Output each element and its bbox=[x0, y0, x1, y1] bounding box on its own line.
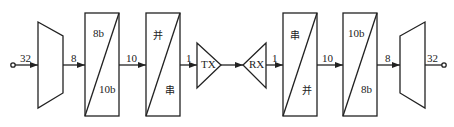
input-mux bbox=[38, 22, 63, 108]
encoder-bottom-label: 10b bbox=[99, 84, 116, 95]
decoder-top-label: 10b bbox=[348, 28, 365, 39]
rx-label: RX bbox=[249, 59, 264, 70]
bus-label-ser-tx: 1 bbox=[186, 53, 192, 64]
bus-label-in: 32 bbox=[20, 53, 31, 64]
deserializer-top-label: 串 bbox=[290, 31, 300, 41]
bus-label-dec-mux: 8 bbox=[385, 53, 391, 64]
deserializer-bottom-label: 并 bbox=[302, 86, 312, 96]
bus-label-out: 32 bbox=[427, 53, 438, 64]
bus-label-enc-ser: 10 bbox=[126, 53, 137, 64]
tx-label: TX bbox=[201, 59, 216, 70]
serializer-bottom-label: 串 bbox=[165, 86, 175, 96]
serializer-top-label: 并 bbox=[153, 31, 163, 41]
decoder-bottom-label: 8b bbox=[361, 84, 372, 95]
bus-label-rx-des: 1 bbox=[272, 53, 278, 64]
output-mux bbox=[400, 22, 425, 108]
encoder-top-label: 8b bbox=[93, 28, 104, 39]
bus-label-des-dec: 10 bbox=[322, 53, 333, 64]
bus-label-mux-enc: 8 bbox=[71, 53, 77, 64]
output-terminal bbox=[442, 63, 446, 67]
input-terminal bbox=[11, 63, 15, 67]
